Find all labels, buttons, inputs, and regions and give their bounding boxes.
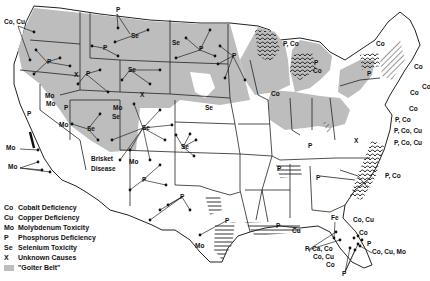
legend-code: Co xyxy=(4,203,18,213)
legend-code: X xyxy=(4,253,18,263)
map-label: P xyxy=(116,6,121,13)
map-label: Se xyxy=(205,104,213,111)
map-label: Co, Cu xyxy=(4,18,25,26)
map-label: Se xyxy=(142,124,150,131)
map-label: Mo xyxy=(195,242,204,249)
map-label: Co xyxy=(271,90,280,97)
legend-code: Se xyxy=(4,243,18,253)
legend-label: Molybdenum Toxicity xyxy=(18,223,89,233)
map-label: P xyxy=(47,58,52,65)
map-label: Mo xyxy=(6,144,15,151)
legend-item-unknown: X Unknown Causes xyxy=(4,253,114,263)
map-label: Mo xyxy=(59,121,68,128)
map-label: P, Ca, Co xyxy=(305,245,333,253)
map-label: Co, Cu xyxy=(353,216,374,224)
map-label: P xyxy=(180,193,185,200)
map-label: Brisket xyxy=(91,155,114,162)
map-label: P xyxy=(277,165,282,172)
map-label: Se xyxy=(112,113,120,120)
legend-label: Selenium Toxicity xyxy=(18,243,77,253)
legend-item-phosphorus: P Phosphorus Deficiency xyxy=(4,233,114,243)
legend-label: Copper Deficiency xyxy=(18,213,79,223)
map-label: P, Co xyxy=(395,116,411,124)
legend-code: P xyxy=(4,233,18,243)
map-label: P xyxy=(276,222,281,229)
map-label: P xyxy=(367,70,372,77)
map-label: P xyxy=(199,45,204,52)
legend-item-selenium: Se Selenium Toxicity xyxy=(4,243,114,253)
map-label: Co xyxy=(376,40,385,47)
map-label: P xyxy=(86,70,91,77)
legend-item-cobalt: Co Cobalt Deficiency xyxy=(4,203,114,213)
map-label: Co xyxy=(326,261,335,268)
map-label: Disease xyxy=(91,165,116,172)
map-label: Co xyxy=(313,67,322,74)
map-label: X xyxy=(140,91,145,98)
map-label: X xyxy=(74,71,79,78)
map-label: P, Co, Cu xyxy=(394,139,422,147)
legend-item-molybdenum: Mo Molybdenum Toxicity xyxy=(4,223,114,233)
map-label: P, Co, Cu xyxy=(394,127,422,135)
map-label: P xyxy=(308,142,313,149)
map-label: Mo xyxy=(8,163,17,170)
map-label: Se xyxy=(87,125,95,132)
map-label: Cu xyxy=(292,227,301,234)
legend-code: Mo xyxy=(4,223,18,233)
legend-label: Cobalt Deficiency xyxy=(18,203,77,213)
legend-code: Cu xyxy=(4,213,18,223)
map-label: P xyxy=(316,174,321,181)
map-label: X xyxy=(354,137,359,144)
map-label: P xyxy=(142,176,147,183)
map-label: Co xyxy=(409,105,418,112)
legend: Co Cobalt Deficiency Cu Copper Deficienc… xyxy=(4,203,114,273)
legend-item-copper: Cu Copper Deficiency xyxy=(4,213,114,223)
map-label: Se xyxy=(128,66,136,73)
map-label: P xyxy=(64,104,69,111)
map-label: Mo xyxy=(45,92,54,99)
map-label: P xyxy=(27,110,32,117)
map-label: P, Co xyxy=(283,40,299,48)
goiter-belt-swatch xyxy=(4,265,14,271)
map-label: Co xyxy=(410,89,419,96)
map-label: Fe xyxy=(331,214,339,221)
map-label: Se xyxy=(181,143,189,150)
map-label: Co xyxy=(359,229,368,236)
legend-label: Phosphorus Deficiency xyxy=(18,233,96,243)
map-label: Mo xyxy=(113,104,122,111)
legend-label: Unknown Causes xyxy=(18,253,76,263)
map-label: Mo xyxy=(129,158,138,165)
map-label: Co, Cu, Mo xyxy=(372,248,406,256)
legend-label: "Goiter Belt" xyxy=(18,263,60,273)
map-label: Co xyxy=(422,83,430,90)
map-label: P xyxy=(367,240,372,247)
map-label: Co xyxy=(414,63,423,70)
map-label: P xyxy=(314,59,319,66)
map-label: Se xyxy=(172,39,180,46)
map-label: P xyxy=(225,217,230,224)
map-label: Se xyxy=(131,32,139,39)
map-label: Co, Cu xyxy=(313,253,334,261)
map-label: P xyxy=(342,270,347,277)
map-label: P, Co xyxy=(385,172,401,180)
legend-item-goiter-belt: "Goiter Belt" xyxy=(4,263,114,273)
map-label: P xyxy=(232,52,237,59)
map-label: P xyxy=(103,44,108,51)
map-label: Mo xyxy=(46,100,55,107)
